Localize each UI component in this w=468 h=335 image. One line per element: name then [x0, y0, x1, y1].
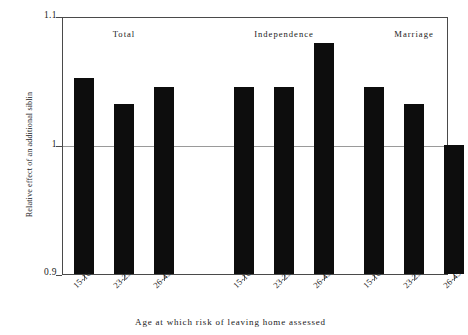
x-axis-title: Age at which risk of leaving home assess… [0, 317, 461, 327]
bar-total-26-45 [154, 87, 174, 274]
y-tick-label-3: 0.9 [31, 267, 57, 277]
bar-total-23-25 [114, 104, 134, 274]
y-axis-title: Relative effect of an additional siblin [25, 55, 34, 255]
y-tick-mark-bottom [56, 275, 62, 276]
plot-area [62, 17, 448, 275]
y-tick-label-2: 1 [31, 139, 57, 149]
bar-marriage-26-45 [444, 145, 464, 274]
bar-independence-26-45 [314, 43, 334, 274]
group-label-marriage: Marriage [354, 29, 468, 39]
group-label-total: Total [64, 29, 184, 39]
bar-marriage-15-16 [364, 87, 384, 274]
bar-independence-15-16 [234, 87, 254, 274]
y-tick-label-1: 1.1 [31, 10, 57, 20]
bar-total-15-16 [74, 78, 94, 274]
bar-marriage-23-25 [404, 104, 424, 274]
bar-independence-23-25 [274, 87, 294, 274]
group-label-independence: Independence [224, 29, 344, 39]
